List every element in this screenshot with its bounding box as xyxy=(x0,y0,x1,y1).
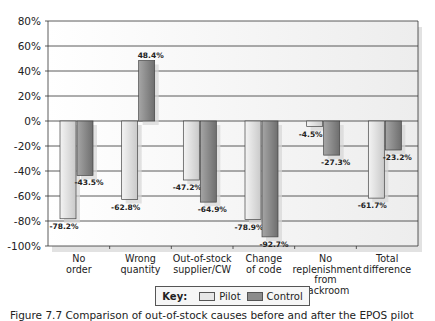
figure-caption: Figure 7.7 Comparison of out-of-stock ca… xyxy=(10,309,414,321)
y-tick-label: -40% xyxy=(0,165,41,177)
data-label: -23.2% xyxy=(383,153,413,162)
data-label: -27.3% xyxy=(321,158,351,167)
x-category-label: Changeof code xyxy=(231,254,297,275)
data-label: 48.4% xyxy=(138,51,165,60)
y-tick-label: 40% xyxy=(0,65,41,77)
data-label: -62.8% xyxy=(111,203,141,212)
pilot-swatch-icon xyxy=(199,292,215,301)
control-bar xyxy=(262,121,278,237)
data-label: -78.2% xyxy=(49,222,79,231)
data-label: -43.5% xyxy=(74,178,104,187)
data-label: -92.7% xyxy=(259,240,289,249)
y-tick-label: 60% xyxy=(0,40,41,52)
pilot-bar xyxy=(122,121,138,200)
x-category-label: Totaldifference xyxy=(354,254,420,275)
legend-item-control: Control xyxy=(247,291,303,302)
y-tick-label: -100% xyxy=(0,240,41,252)
control-bar xyxy=(324,121,340,155)
control-swatch-icon xyxy=(247,292,263,301)
y-tick-label: -80% xyxy=(0,215,41,227)
control-bar xyxy=(200,121,216,202)
y-tick-label: 80% xyxy=(0,15,41,27)
pilot-bar xyxy=(245,121,261,220)
data-label: -64.9% xyxy=(198,205,228,214)
y-tick-label: -60% xyxy=(0,190,41,202)
legend-key-label: Key: xyxy=(162,291,187,302)
legend-item-pilot: Pilot xyxy=(199,291,240,302)
data-label: -61.7% xyxy=(358,201,388,210)
control-bar xyxy=(385,121,401,150)
y-tick-label: 0% xyxy=(0,115,41,127)
x-category-label: Out-of-stocksupplier/CW xyxy=(169,254,235,275)
pilot-bar xyxy=(60,121,76,219)
y-tick-label: 20% xyxy=(0,90,41,102)
pilot-bar xyxy=(307,121,323,127)
legend: Key: Pilot Control xyxy=(155,286,310,306)
y-tick-label: -20% xyxy=(0,140,41,152)
data-label: -78.9% xyxy=(234,223,264,232)
data-label: -47.2% xyxy=(173,183,203,192)
x-category-label: Wrongquantity xyxy=(108,254,174,275)
x-category-label: Noorder xyxy=(46,254,112,275)
pilot-bar xyxy=(183,121,199,180)
control-bar xyxy=(77,121,93,175)
control-bar xyxy=(139,61,155,122)
data-label: -4.5% xyxy=(299,130,323,139)
